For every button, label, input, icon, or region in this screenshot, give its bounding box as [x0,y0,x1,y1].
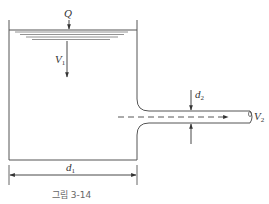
tank-right-wall-lower [137,123,250,160]
tank-right-wall-upper [137,20,250,111]
label-d2: d2 [195,88,205,102]
tank-pipe-diagram: Q V1 d2 V2 d1 그림 3-14 [0,0,269,204]
label-v1: V1 [55,53,66,67]
water-surface [15,32,128,40]
label-d1: d1 [66,161,76,175]
label-q: Q [64,7,72,19]
label-v2: V2 [254,110,265,124]
figure-caption: 그림 3-14 [52,189,92,200]
